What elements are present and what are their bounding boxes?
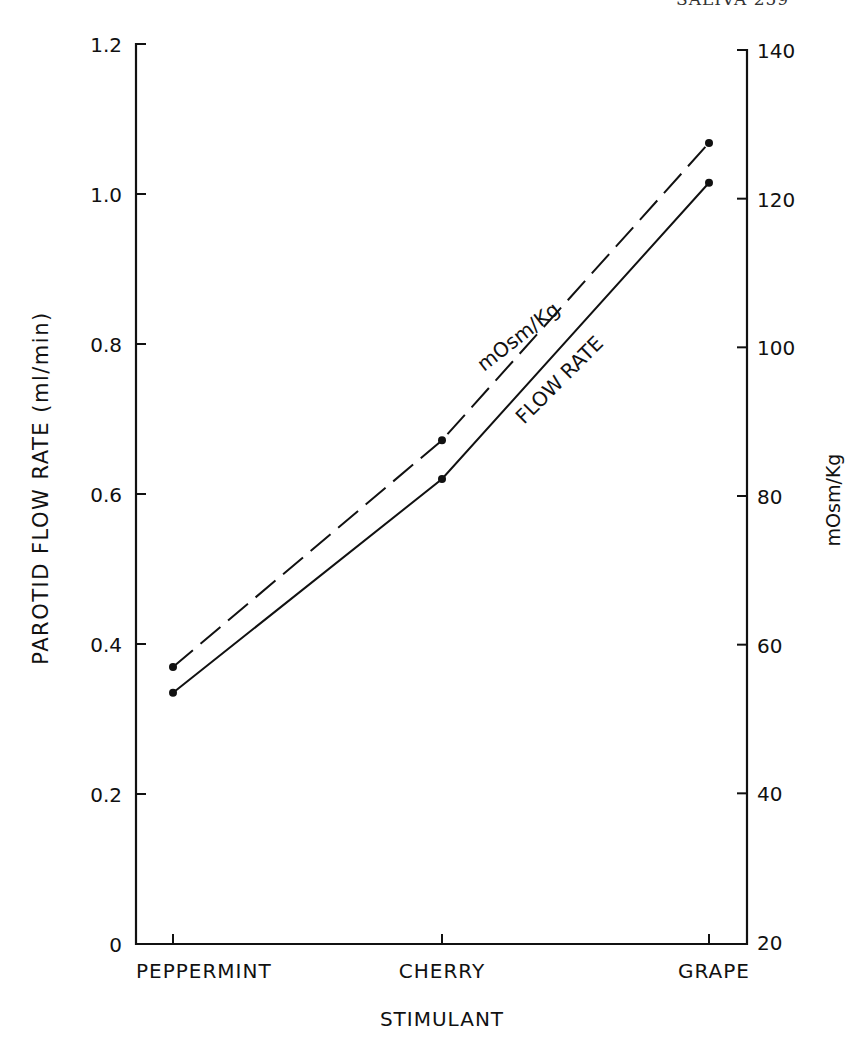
axes xyxy=(136,44,747,944)
right-tick-label: 20 xyxy=(757,931,782,955)
y-axis-label: PAROTID FLOW RATE (ml/min) xyxy=(29,311,53,664)
data-point xyxy=(705,139,713,147)
series-lines xyxy=(169,139,713,697)
right-tick-label: 100 xyxy=(757,336,795,360)
x-category-label: CHERRY xyxy=(399,959,485,983)
data-point xyxy=(438,436,446,444)
mosm-line xyxy=(173,143,709,667)
right-tick-label: 120 xyxy=(757,188,795,212)
left-tick-label: 0 xyxy=(109,933,122,957)
annotation-mosm: mOsm/Kg xyxy=(472,297,564,376)
left-tick-label: 0.4 xyxy=(90,633,122,657)
data-point xyxy=(705,179,713,187)
data-point xyxy=(169,689,177,697)
right-axis-ticks: 20406080100120140 xyxy=(737,39,795,955)
data-point xyxy=(169,663,177,671)
left-tick-label: 0.8 xyxy=(90,333,122,357)
right-tick-label: 60 xyxy=(757,634,782,658)
right-tick-label: 140 xyxy=(757,39,795,63)
x-category-label: PEPPERMINT xyxy=(136,959,272,983)
left-tick-label: 0.6 xyxy=(90,483,122,507)
left-axis-ticks: 00.20.40.60.81.01.2 xyxy=(90,33,146,957)
y2-axis-label: mOsm/Kg xyxy=(822,454,844,547)
x-category-label: GRAPE xyxy=(678,959,750,983)
left-tick-label: 0.2 xyxy=(90,783,122,807)
left-tick-label: 1.2 xyxy=(90,33,122,57)
x-axis-ticks: PEPPERMINTCHERRYGRAPE xyxy=(136,934,750,983)
left-tick-label: 1.0 xyxy=(90,183,122,207)
data-point xyxy=(438,475,446,483)
axis-frame xyxy=(136,44,747,944)
x-axis-label: STIMULANT xyxy=(380,1007,504,1031)
right-tick-label: 80 xyxy=(757,485,782,509)
right-tick-label: 40 xyxy=(757,782,782,806)
parotid-flow-chart: 00.20.40.60.81.01.2 20406080100120140 PE… xyxy=(0,0,867,1040)
